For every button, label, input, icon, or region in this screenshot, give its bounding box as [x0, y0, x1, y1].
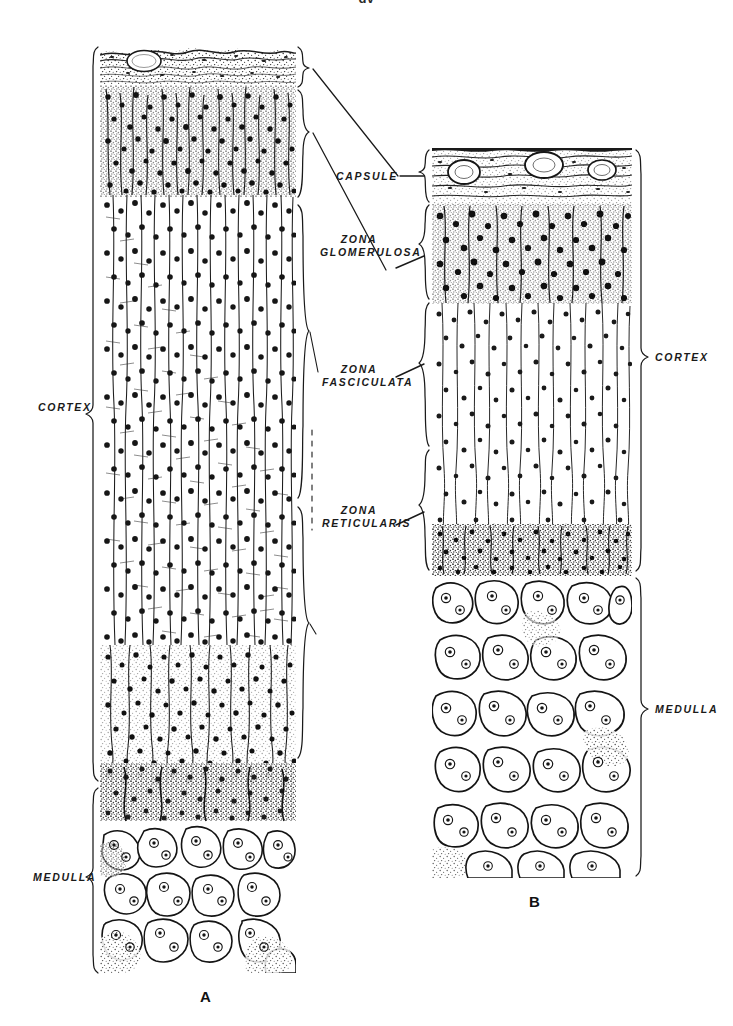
brace-cortex-a: [86, 47, 98, 781]
cut-off-caption: gy: [0, 0, 733, 3]
panel-b-illustration: [432, 148, 632, 878]
label-cortex-left: CORTEX: [38, 401, 92, 414]
label-zona-fasciculata: ZONA FASCICULATA: [322, 363, 396, 389]
leader-reticularis-a: [310, 624, 316, 634]
label-zona-reticularis: ZONA RETICULARIS: [322, 504, 396, 530]
label-cortex-right: CORTEX: [655, 351, 709, 364]
label-zona-glomerulosa: ZONA GLOMERULOSA: [320, 233, 398, 259]
panel-letter-a: A: [200, 988, 211, 1005]
brace-capsule-a: [298, 47, 309, 87]
brace-medulla-b: [636, 578, 648, 876]
brace-reticularis-a: [298, 507, 309, 758]
label-zona-fasciculata-line1: ZONA: [341, 363, 378, 375]
brace-fasciculata-b: [419, 303, 429, 446]
label-medulla-left: MEDULLA: [33, 871, 96, 884]
panel-a-illustration: [100, 45, 296, 973]
brace-glomerulosa-a: [298, 90, 309, 197]
label-zona-glomerulosa-line2: GLOMERULOSA: [320, 246, 422, 258]
panel-letter-b: B: [529, 893, 540, 910]
label-medulla-right: MEDULLA: [655, 703, 718, 716]
brace-fasciculata-a: [298, 205, 309, 498]
brace-reticularis-b: [419, 450, 429, 570]
label-zona-reticularis-line1: ZONA: [341, 504, 378, 516]
label-zona-reticularis-line2: RETICULARIS: [322, 517, 411, 529]
brace-cortex-b: [636, 150, 648, 571]
label-zona-glomerulosa-line1: ZONA: [341, 233, 378, 245]
label-capsule: CAPSULE: [336, 170, 398, 183]
leader-fasciculata-a: [310, 332, 318, 372]
label-zona-fasciculata-line2: FASCICULATA: [322, 376, 413, 388]
figure-plate: gy: [0, 0, 733, 1026]
brace-capsule-b: [419, 150, 429, 202]
leader-capsule-a: [313, 69, 398, 176]
